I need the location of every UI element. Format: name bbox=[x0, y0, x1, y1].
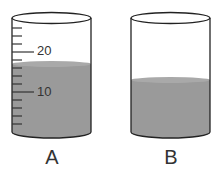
scale-label-10: 10 bbox=[37, 84, 67, 99]
cylinders-figure bbox=[0, 0, 221, 174]
cylinder-b-rim bbox=[131, 13, 210, 24]
cylinder-b-label: B bbox=[156, 146, 186, 169]
scale-label-20: 20 bbox=[37, 43, 67, 58]
cylinder-a-liquid bbox=[12, 64, 91, 138]
cylinder-a bbox=[12, 13, 91, 139]
cylinder-a-label: A bbox=[37, 146, 67, 169]
cylinder-a-rim bbox=[12, 13, 91, 24]
cylinder-b bbox=[131, 13, 210, 139]
cylinder-b-liquid bbox=[131, 80, 210, 138]
cylinder-a-liquid-surface bbox=[12, 61, 91, 67]
cylinder-b-liquid-surface bbox=[131, 77, 210, 83]
